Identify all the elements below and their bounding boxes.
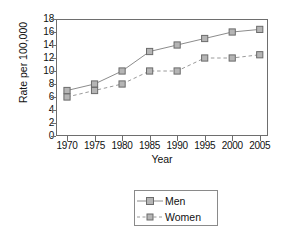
x-axis-tick-mark [150, 136, 151, 141]
legend-item-men: Men [135, 193, 219, 209]
chart-figure: Rate per 100,000 024681012141618 1970197… [0, 0, 288, 232]
y-axis-tick-mark [51, 71, 56, 72]
legend-swatch-men [135, 194, 165, 208]
x-axis-tick-mark [177, 136, 178, 141]
plot-area [56, 19, 268, 136]
x-axis-tick-mark [260, 136, 261, 141]
chart-legend: Men Women [134, 190, 218, 226]
y-axis-tick-mark [51, 123, 56, 124]
x-axis-tick-mark [95, 136, 96, 141]
y-axis-tick-mark [51, 32, 56, 33]
y-axis-tick-mark [51, 97, 56, 98]
x-axis-title: Year [56, 154, 268, 165]
legend-swatch-women [135, 210, 165, 224]
legend-label-women: Women [165, 212, 201, 223]
x-axis-tick-mark [67, 136, 68, 141]
y-axis-tick-mark [51, 136, 56, 137]
x-axis-tick-mark [122, 136, 123, 141]
legend-item-women: Women [135, 209, 219, 225]
y-axis-tick-mark [51, 19, 56, 20]
y-axis-tick-mark [51, 84, 56, 85]
x-axis-tick-label: 2005 [243, 141, 277, 151]
x-axis-tick-mark [232, 136, 233, 141]
y-axis-tick-mark [51, 58, 56, 59]
y-axis-title: Rate per 100,000 [18, 3, 29, 123]
y-axis-tick-mark [51, 45, 56, 46]
legend-label-men: Men [165, 196, 185, 207]
x-axis-tick-mark [205, 136, 206, 141]
y-axis-tick-mark [51, 110, 56, 111]
